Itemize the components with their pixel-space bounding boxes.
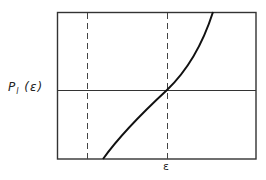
y-axis-label: Pl (ε): [8, 80, 43, 96]
curve-p-l-epsilon: [103, 12, 213, 159]
y-label-argument: (ε): [24, 80, 43, 94]
y-label-subscript: l: [16, 87, 19, 96]
x-axis-label: ε: [163, 160, 169, 173]
y-label-main: P: [8, 80, 16, 94]
